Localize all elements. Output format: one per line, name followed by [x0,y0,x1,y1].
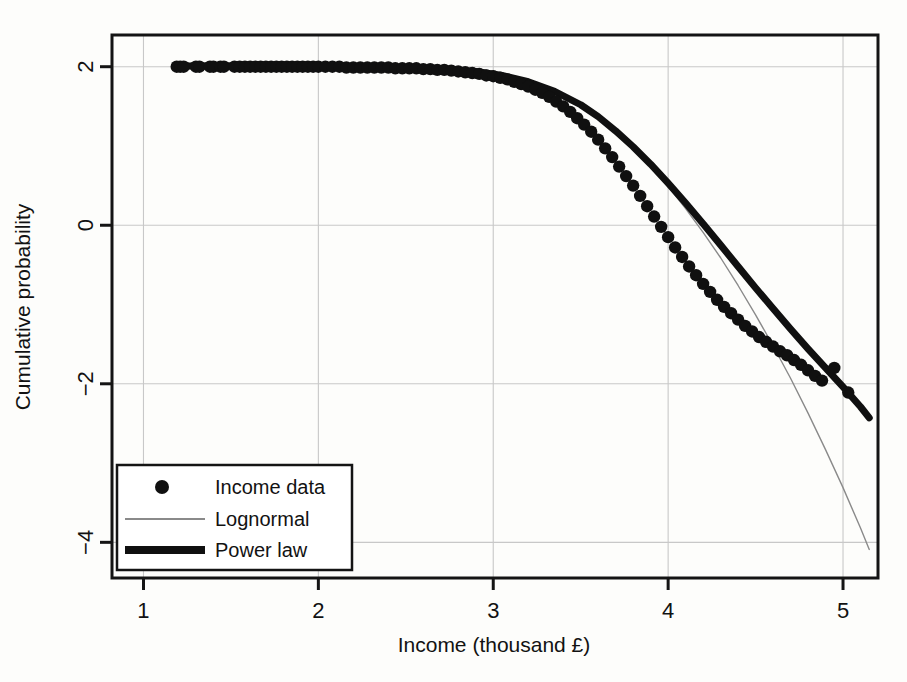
data-point [828,362,840,374]
data-point [634,190,646,202]
x-tick-label: 4 [662,598,674,623]
y-tick-label: −4 [74,530,99,555]
data-point [641,200,653,212]
y-tick-label: 0 [74,219,99,231]
chart-legend: Income dataLognormalPower law [117,465,352,570]
x-tick-label: 2 [312,598,324,623]
data-point [627,179,639,191]
x-tick-label: 3 [487,598,499,623]
cumulative-probability-chart: 1234520−2−4 Income dataLognormalPower la… [0,0,907,682]
x-tick-label: 5 [837,598,849,623]
data-point [178,61,190,73]
y-tick-label: 2 [74,61,99,73]
chart-figure: 1234520−2−4 Income dataLognormalPower la… [0,0,907,682]
y-tick-label: −2 [74,371,99,396]
x-tick-label: 1 [137,598,149,623]
legend-label: Power law [215,539,308,561]
data-point [662,231,674,243]
legend-label: Lognormal [215,508,310,530]
y-axis-title: Cumulative probability [11,203,34,410]
legend-label: Income data [215,476,326,498]
data-point [842,386,854,398]
data-point [655,221,667,233]
data-point [648,210,660,222]
data-point [816,374,828,386]
x-axis-title: Income (thousand £) [398,633,591,656]
legend-marker-circle-icon [155,480,169,494]
